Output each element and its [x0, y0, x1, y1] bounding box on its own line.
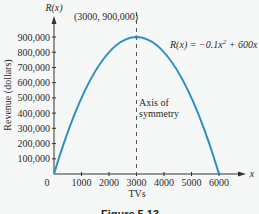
vertex-point	[135, 35, 139, 39]
y-tick-label: 500,000	[18, 92, 51, 103]
x-tick-label: 4000	[154, 177, 174, 188]
y-tick-label: 100,000	[18, 153, 51, 164]
x-axis-title: TVs	[128, 188, 145, 199]
revenue-chart: 100,000 200,000 300,000 400,000 500,000 …	[0, 0, 259, 214]
x-tick-labels: 0 1000 2000 3000 4000 5000 6000	[45, 177, 230, 188]
y-tick-label: 400,000	[18, 108, 51, 119]
x-tick-label: 1000	[72, 177, 92, 188]
origin-label: 0	[45, 177, 50, 188]
y-axis-name: R(x)	[44, 2, 63, 14]
axis-of-symmetry-label-line1: Axis of	[139, 97, 169, 108]
y-axis-arrow-icon	[52, 16, 57, 24]
x-axis-arrow-icon	[238, 172, 246, 177]
y-tick-labels: 100,000 200,000 300,000 400,000 500,000 …	[18, 32, 51, 165]
y-tick-label: 200,000	[18, 138, 51, 149]
axis-of-symmetry-label-line2: symmetry	[139, 108, 179, 119]
x-tick-label: 3000	[127, 177, 147, 188]
y-tick-label: 700,000	[18, 62, 51, 73]
equation-label: R(x) = −0.1x2 + 600x	[169, 38, 258, 51]
x-tick-label: 5000	[182, 177, 202, 188]
revenue-curve	[54, 37, 219, 174]
y-tick-label: 600,000	[18, 77, 51, 88]
x-tick-label: 6000	[209, 177, 229, 188]
vertex-label: (3000, 900,000)	[74, 11, 138, 23]
y-tick-label: 800,000	[18, 47, 51, 58]
y-tick-label: 300,000	[18, 123, 51, 134]
y-tick-label: 900,000	[18, 32, 51, 43]
x-tick-label: 2000	[99, 177, 119, 188]
x-axis-name: x	[249, 168, 255, 179]
y-axis-title: Revenue (dollars)	[2, 59, 14, 130]
figure-caption: Figure 5.13	[101, 208, 159, 214]
